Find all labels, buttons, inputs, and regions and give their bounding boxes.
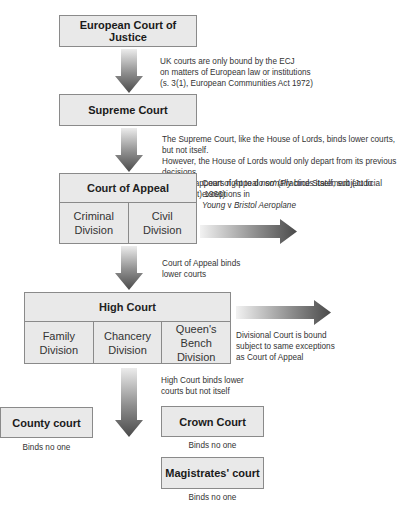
arrow-down-icon <box>115 49 143 93</box>
note-line: on matters of European law or institutio… <box>160 67 313 78</box>
ecj-box: European Court of Justice <box>59 15 197 47</box>
note-line: However, the House of Lords would only d… <box>162 156 408 178</box>
division-line: Civil <box>143 209 182 223</box>
note-emphasis: normally <box>261 179 292 188</box>
case-name: Young <box>202 201 225 210</box>
note-line: as Court of Appeal <box>236 352 335 363</box>
division-line: Division <box>143 223 182 237</box>
magistrates-court-note: Binds no one <box>161 493 264 502</box>
criminal-division: CriminalDivision <box>60 203 129 243</box>
note-line: The Supreme Court, like the House of Lor… <box>162 134 408 156</box>
note-line: Divisional Court is bound <box>236 330 335 341</box>
division-line: Family <box>40 329 79 343</box>
chancery-division: ChanceryDivision <box>94 322 163 363</box>
appeal-self-note: Court of Appeal normally binds itself, s… <box>202 178 408 211</box>
arrow-right-icon <box>236 300 331 325</box>
division-line: Division <box>74 223 114 237</box>
magistrates-court-box: Magistrates' court <box>161 457 264 489</box>
note-line: courts but not itself <box>161 386 244 397</box>
division-line: Division <box>104 343 151 357</box>
note-line: UK courts are only bound by the ECJ <box>160 56 313 67</box>
high-court-box: High Court FamilyDivision ChanceryDivisi… <box>24 292 231 364</box>
case-name: Bristol Aeroplane <box>234 201 296 210</box>
high-court-label: High Court <box>25 293 230 322</box>
ecj-note: UK courts are only bound by the ECJ on m… <box>160 56 313 89</box>
county-court-label: County court <box>12 417 80 429</box>
division-line: Queen's Bench <box>164 322 228 350</box>
note-line: subject to same exceptions <box>236 341 335 352</box>
high-court-note: High Court binds lower courts but not it… <box>161 375 244 397</box>
note-line: High Court binds lower <box>161 375 244 386</box>
civil-division: CivilDivision <box>129 203 197 243</box>
division-line: Division <box>40 343 79 357</box>
supreme-court-box: Supreme Court <box>59 94 197 126</box>
family-division: FamilyDivision <box>25 322 94 363</box>
county-court-box: County court <box>0 407 93 438</box>
crown-court-box: Crown Court <box>161 406 264 437</box>
note-line: Court of Appeal normally binds itself, s… <box>202 178 408 200</box>
note-text: v <box>225 201 234 210</box>
county-court-note: Binds no one <box>0 443 93 452</box>
divisional-note: Divisional Court is bound subject to sam… <box>236 330 335 363</box>
note-line: Court of Appeal binds <box>162 258 240 269</box>
magistrates-court-label: Magistrates' court <box>165 467 259 479</box>
arrow-down-icon <box>115 128 143 172</box>
division-line: Chancery <box>104 329 151 343</box>
division-line: Division <box>164 350 228 364</box>
division-line: Criminal <box>74 209 114 223</box>
arrow-right-icon <box>200 219 297 244</box>
appeal-lower-note: Court of Appeal binds lower courts <box>162 258 240 280</box>
ecj-label: European Court of Justice <box>60 19 196 43</box>
arrow-down-icon <box>115 246 143 290</box>
court-of-appeal-box: Court of Appeal CriminalDivision CivilDi… <box>59 173 197 244</box>
arrow-down-icon <box>115 368 143 437</box>
note-text: Court of Appeal <box>202 179 261 188</box>
supreme-court-label: Supreme Court <box>88 104 167 116</box>
note-line: lower courts <box>162 269 240 280</box>
queens-bench-division: Queen's BenchDivision <box>162 322 230 363</box>
note-line: Young v Bristol Aeroplane <box>202 200 408 211</box>
court-of-appeal-label: Court of Appeal <box>60 174 196 203</box>
crown-court-note: Binds no one <box>161 441 264 450</box>
note-line: (s. 3(1), European Communities Act 1972) <box>160 78 313 89</box>
crown-court-label: Crown Court <box>179 416 246 428</box>
